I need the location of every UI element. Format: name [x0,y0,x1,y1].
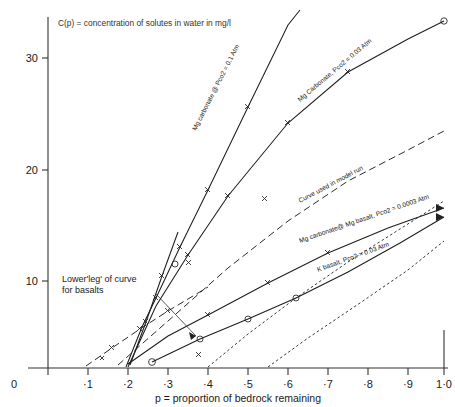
annotation-arrow-head [189,332,196,340]
series-lower-leg-rising [208,201,444,367]
series-k-basalt-003atm: K basalt, Pco2 = 0.03 Atm [149,213,444,365]
x-tick-label-4: ·4 [203,378,213,390]
x-tick-label-3: ·3 [163,378,173,390]
x-tick-label-0: 0 [11,378,17,390]
x-tick-label-9: ·9 [403,378,413,390]
annotation-lower-leg-line1: Lower'leg' of curve [62,274,136,284]
axis-x [28,330,448,375]
y-tick-label-30: 30 [26,52,38,64]
axis-y [42,17,48,368]
x-tick-label-1: ·1 [83,378,93,390]
x-tick-label-8: ·8 [363,378,373,390]
series-label-mg-carbonate-003atm: Mg Carbonate, Pco2 = 0.03 Atm [296,37,374,104]
x-tick-label-10: 1·0 [436,378,452,390]
y-tick-label-20: 20 [26,164,38,176]
x-tick-label-2: ·2 [123,378,133,390]
concentration-note-line1: C(p) = concentration of solutes in water… [58,18,231,28]
x-axis-title: p = proportion of bedrock remaining [155,392,321,404]
y-tick-label-10: 10 [26,275,38,287]
series-label-k-basalt-003atm: K basalt, Pco2 = 0.03 Atm [316,240,390,273]
annotation-lower-leg-line2: for basalts [62,285,104,295]
annotation-lower-leg: Lower'leg' of curve for basalts [62,274,196,340]
series-basalt-steep-branch [130,232,178,365]
series-curve-used-in-model-run: Curve used in model run [118,131,444,365]
chart-plot-area: 30 20 10 0 ·1 ·2 ·3 ·4 ·5 ·6 ·7 ·8 ·9 1·… [0,0,455,407]
series-label-curve-used-in-model-run: Curve used in model run [297,164,364,204]
series-marker-circle [172,261,178,267]
series-label-mg-carbonate-01atm: Mg carbonate @ Pco2 = 0.1 Atm [191,43,242,132]
x-tick-label-5: ·5 [243,378,253,390]
series-lower-leg-secondary [268,241,444,367]
x-tick-label-7: ·7 [323,378,333,390]
series-marker-group [149,295,299,365]
x-tick-label-6: ·6 [283,378,293,390]
chart-figure: 30 20 10 0 ·1 ·2 ·3 ·4 ·5 ·6 ·7 ·8 ·9 1·… [0,0,455,407]
